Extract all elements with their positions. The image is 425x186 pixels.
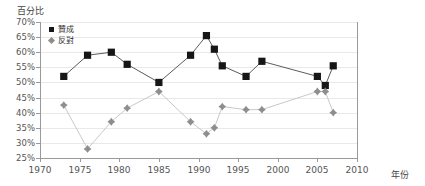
data-point-square [84,52,91,59]
series-approve [60,32,337,89]
data-point-square [314,73,321,80]
chart-legend: 贊成 反對 [46,24,74,46]
series-oppose [60,88,337,153]
data-point-diamond [258,106,266,114]
legend-label-oppose: 反對 [57,35,74,46]
chart-container: 百分比 年份 70%65%60%55%50%45%40%35%30%25% 19… [0,0,425,186]
series-line [64,36,333,86]
legend-label-approve: 贊成 [57,24,74,35]
data-point-square [203,32,210,39]
data-point-diamond [242,106,250,114]
square-marker-icon [46,24,57,35]
data-point-square [242,73,249,80]
data-point-square [330,62,337,69]
data-point-square [187,52,194,59]
series-line [64,92,333,149]
data-point-square [219,62,226,69]
data-point-square [60,73,67,80]
data-point-diamond [218,103,226,111]
data-point-diamond [203,130,211,138]
data-point-square [155,79,162,86]
legend-item-approve: 贊成 [46,24,74,35]
legend-item-oppose: 反對 [46,35,74,46]
data-point-diamond [60,101,68,109]
data-point-diamond [329,109,337,117]
data-point-diamond [313,88,321,96]
data-point-square [124,61,131,68]
data-point-square [258,58,265,65]
data-point-square [211,46,218,53]
data-point-diamond [210,124,218,132]
diamond-marker-icon [46,35,57,46]
data-point-square [108,49,115,56]
